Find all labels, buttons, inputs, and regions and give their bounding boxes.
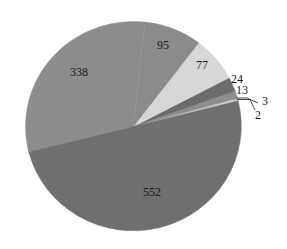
pie-chart: 2313247795338552: [0, 0, 287, 249]
slice-label-95: 95: [157, 38, 169, 52]
pie-slices: [26, 22, 242, 231]
slice-label-338: 338: [70, 65, 88, 79]
slice-label-3: 3: [262, 94, 268, 108]
leader-line-3: [236, 98, 258, 103]
slice-label-552: 552: [143, 185, 161, 199]
slice-label-24: 24: [231, 72, 243, 86]
slice-label-2: 2: [255, 108, 261, 122]
slice-label-77: 77: [196, 58, 208, 72]
